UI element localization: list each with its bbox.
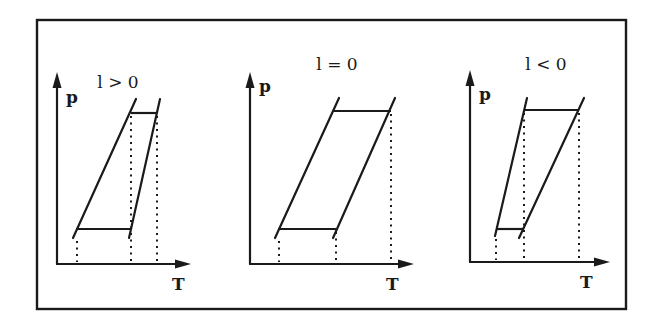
x-axis-arrow-icon <box>175 260 191 269</box>
y-axis-arrow-icon <box>53 72 62 88</box>
x-axis-arrow-icon <box>594 258 610 267</box>
phase-boundary-left <box>495 98 527 236</box>
x-axis-label: T <box>580 272 593 292</box>
x-axis-label: T <box>172 274 185 294</box>
panel-title: l < 0 <box>525 54 566 74</box>
x-axis-label: T <box>386 274 399 294</box>
y-axis-arrow-icon <box>466 70 475 86</box>
phase-boundary-right <box>519 98 584 238</box>
panel-title: l > 0 <box>97 72 138 92</box>
phase-diagram-figure: l > 0pTl = 0pTl < 0pT <box>0 0 652 324</box>
phase-boundary-left <box>275 98 339 238</box>
y-axis-arrow-icon <box>246 72 255 88</box>
phase-boundary-right <box>333 98 395 238</box>
phase-boundary-right <box>129 99 160 238</box>
panel-3: l < 0pT <box>466 54 611 292</box>
panel-2: l = 0pT <box>246 54 415 294</box>
panel-title: l = 0 <box>316 54 357 74</box>
y-axis-label: p <box>66 87 78 107</box>
phase-boundary-left <box>73 99 136 238</box>
x-axis-arrow-icon <box>398 260 414 269</box>
y-axis-label: p <box>479 84 491 104</box>
panel-1: l > 0pT <box>53 72 192 294</box>
y-axis-label: p <box>259 76 271 96</box>
